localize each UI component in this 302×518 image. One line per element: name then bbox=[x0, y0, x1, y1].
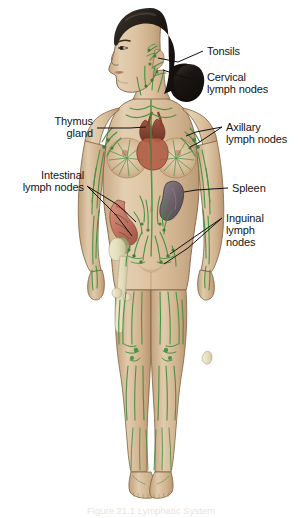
label-spleen: Spleen bbox=[232, 182, 266, 194]
label-thymus-gland: Thymus gland bbox=[8, 115, 93, 139]
label-axillary-lymph-nodes: Axillary lymph nodes bbox=[226, 121, 287, 145]
label-cervical-lymph-nodes: Cervical lymph nodes bbox=[207, 71, 268, 95]
left-hand bbox=[88, 270, 105, 300]
label-inguinal-lymph-nodes: Inguinal lymph nodes bbox=[226, 212, 264, 249]
label-intestinal-lymph-nodes: Intestinal lymph nodes bbox=[2, 169, 84, 193]
diagram-stage: Tonsils Cervical lymph nodes Axillary ly… bbox=[0, 0, 302, 518]
right-foot bbox=[150, 472, 173, 498]
pupil bbox=[120, 46, 124, 50]
label-tonsils: Tonsils bbox=[207, 45, 240, 57]
right-hand bbox=[198, 270, 215, 300]
figure-caption: Figure 21.1 Lymphatic System bbox=[0, 505, 302, 516]
